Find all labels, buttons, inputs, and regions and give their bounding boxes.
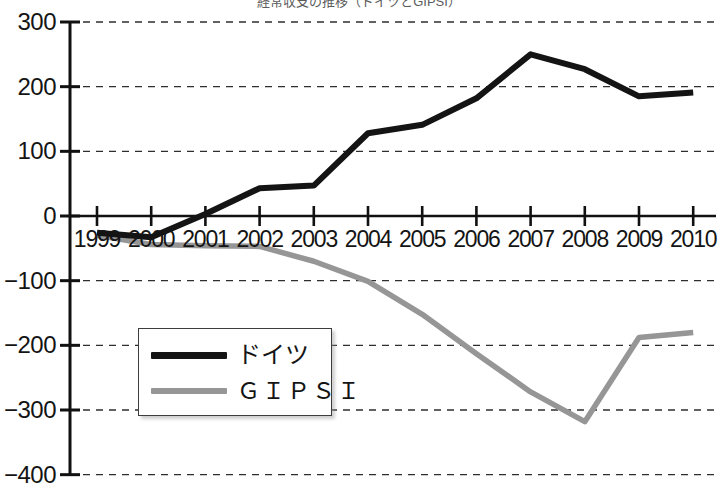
chart-container: 経常収支の推移（ドイツとGIPSI） 3002001000−100−200−30…	[0, 0, 718, 490]
y-tick-label: −100	[4, 269, 56, 293]
y-tick-label: 200	[17, 75, 56, 99]
x-tick-label: 2009	[611, 228, 667, 251]
series-line	[97, 54, 693, 237]
legend-label-gipsi: ＧＩＰＳＩ	[237, 380, 362, 403]
y-tick-label: −400	[4, 463, 56, 487]
x-tick-label: 2000	[123, 228, 179, 251]
x-tick-label: 2010	[665, 228, 718, 251]
x-tick-label: 2005	[394, 228, 450, 251]
x-tick-label: 2008	[557, 228, 613, 251]
legend-label-deutschland: ドイツ	[237, 343, 309, 367]
x-tick-label: 2002	[232, 228, 288, 251]
x-tick-label: 1999	[69, 228, 125, 251]
x-tick-label: 2004	[340, 228, 396, 251]
legend-item-gipsi: ＧＩＰＳＩ	[139, 373, 333, 409]
x-tick-label: 2003	[286, 228, 342, 251]
y-tick-label: 100	[17, 139, 56, 163]
legend-swatch-deutschland	[151, 352, 227, 359]
x-tick-label: 2001	[177, 228, 233, 251]
legend-swatch-gipsi	[151, 388, 227, 394]
y-tick-label: −300	[4, 398, 56, 422]
legend-item-deutschland: ドイツ	[139, 337, 333, 373]
y-tick-label: −200	[4, 333, 56, 357]
x-tick-label: 2007	[503, 228, 559, 251]
y-tick-label: 0	[43, 204, 56, 228]
y-tick-label: 300	[17, 10, 56, 34]
legend: ドイツ ＧＩＰＳＩ	[138, 328, 332, 416]
x-tick-label: 2006	[448, 228, 504, 251]
